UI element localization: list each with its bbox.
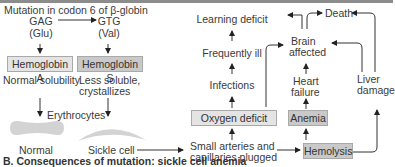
sickle-cell-shape <box>78 129 146 141</box>
death-label: Death <box>325 8 353 19</box>
brain-affected-label-2: affected <box>289 47 326 58</box>
mutation-title: Mutation in codon 6 of β-globin <box>4 5 148 16</box>
frequently-ill-label: Frequently ill <box>196 48 268 59</box>
normal-codon: GAG <box>28 16 54 27</box>
anemia-box: Anemia <box>288 110 328 126</box>
hemolysis-box: Hemolysis <box>303 143 353 159</box>
hemoglobin-s-box: Hemoglobin S <box>77 56 143 72</box>
figure-caption: B. Consequences of mutation: sickle cell… <box>3 156 246 167</box>
heart-failure-label-2: failure <box>291 87 320 98</box>
mutant-codon: GTG <box>96 16 122 27</box>
erythrocytes-label: Erythrocytes <box>47 110 105 121</box>
normal-amino-acid: (Glu) <box>24 28 58 39</box>
hemoglobin-s-property-2: crystallizes <box>79 86 130 97</box>
learning-deficit-label: Learning deficit <box>190 14 274 25</box>
hemoglobin-a-box: Hemoglobin A <box>7 56 73 72</box>
oxygen-deficit-box: Oxygen deficit <box>191 110 277 126</box>
mutant-amino-acid: (Val) <box>92 28 126 39</box>
hemoglobin-a-property: Normal solubility <box>3 75 80 86</box>
liver-damage-label-2: damage <box>357 85 395 96</box>
normal-erythrocyte-shape <box>10 121 64 135</box>
infections-label: Infections <box>200 80 264 91</box>
